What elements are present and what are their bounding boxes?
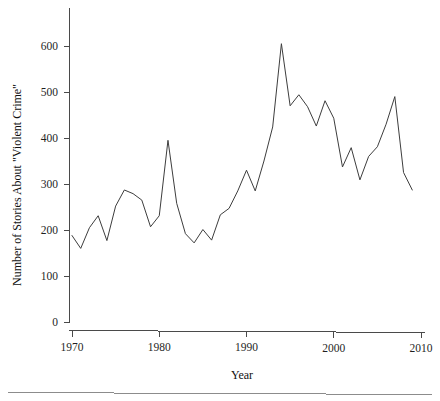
x-axis-tick-labels: 19701980199020002010 — [61, 341, 433, 355]
x-tick-label-2010: 2010 — [410, 342, 433, 354]
x-tick-label-2000: 2000 — [322, 342, 345, 354]
x-tick-label-1980: 1980 — [148, 341, 171, 353]
footer-divider — [8, 393, 432, 395]
x-axis-group: 19701980199020002010 Year — [61, 331, 433, 383]
violent-crime-stories-line — [72, 44, 412, 249]
chart-figure: 0100200300400500600 Number of Stories Ab… — [0, 0, 440, 401]
y-tick-label-400: 400 — [41, 132, 59, 144]
y-tick-label-200: 200 — [41, 224, 59, 236]
y-axis-title: Number of Stories About "Violent Crime" — [10, 84, 24, 286]
y-tick-label-500: 500 — [41, 86, 59, 98]
x-tick-label-1990: 1990 — [235, 341, 258, 353]
y-tick-label-100: 100 — [41, 270, 59, 282]
y-axis-group: 0100200300400500600 Number of Stories Ab… — [10, 8, 70, 328]
y-tick-label-300: 300 — [41, 178, 59, 190]
x-axis-line — [70, 331, 426, 333]
y-axis-tick-labels: 0100200300400500600 — [41, 40, 59, 328]
y-tick-label-600: 600 — [41, 40, 59, 52]
y-tick-label-0: 0 — [52, 316, 58, 328]
x-tick-label-1970: 1970 — [61, 341, 84, 353]
x-axis-title: Year — [231, 368, 253, 382]
line-chart-canvas: 0100200300400500600 Number of Stories Ab… — [0, 0, 440, 401]
